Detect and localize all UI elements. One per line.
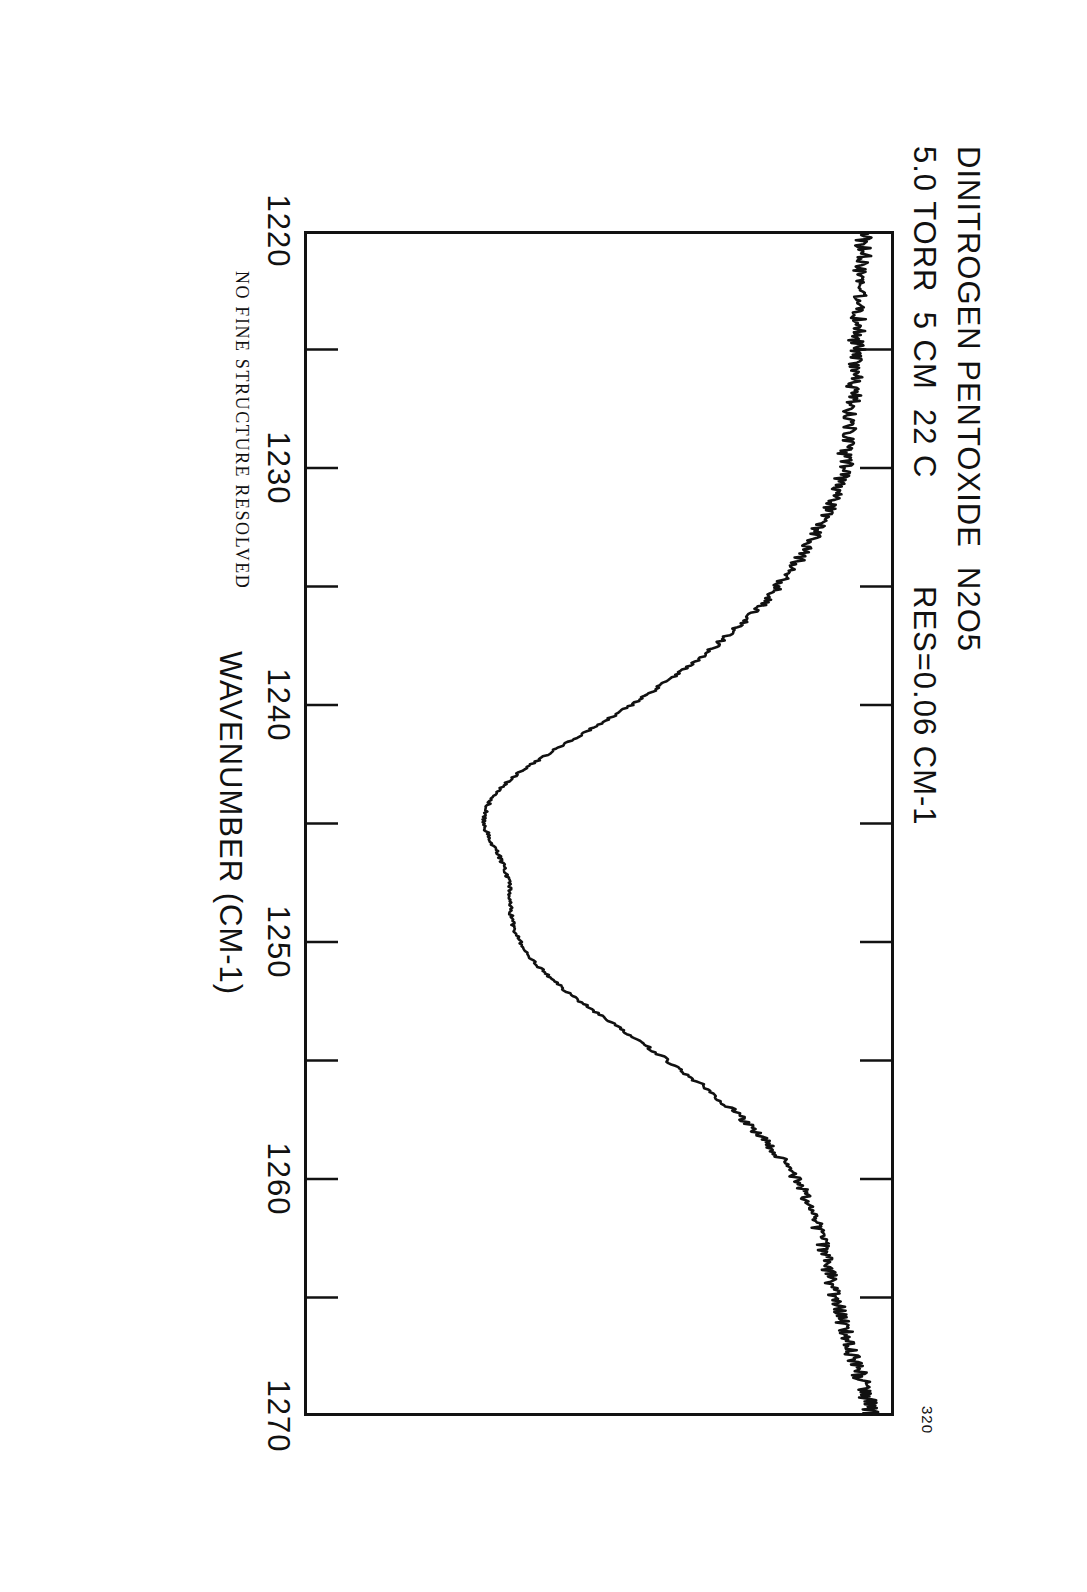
figure-resolution: RES=0.06 CM-1 bbox=[906, 586, 942, 826]
spectrum-figure: DINITROGEN PENTOXIDE N2O5 5.0 TORR 5 CM … bbox=[94, 116, 994, 1476]
x-tick-label: 1240 bbox=[260, 669, 296, 742]
figure-conditions: 5.0 TORR 5 CM 22 C bbox=[906, 146, 942, 478]
figure-page: DINITROGEN PENTOXIDE N2O5 5.0 TORR 5 CM … bbox=[0, 0, 1087, 1592]
x-tick-label: 1250 bbox=[260, 906, 296, 979]
figure-title: DINITROGEN PENTOXIDE N2O5 bbox=[950, 146, 986, 652]
spectrum-trace bbox=[304, 231, 894, 1416]
x-tick-label: 1220 bbox=[260, 195, 296, 268]
rotated-figure-wrapper: DINITROGEN PENTOXIDE N2O5 5.0 TORR 5 CM … bbox=[94, 116, 994, 1476]
x-tick-label-row: 122012301240125012601270 bbox=[252, 116, 296, 1476]
x-tick-label: 1260 bbox=[260, 1143, 296, 1216]
x-tick-label: 1270 bbox=[260, 1380, 296, 1453]
plot-annotation: NO FINE STRUCTURE RESOLVED bbox=[231, 271, 252, 589]
x-axis-title: WAVENUMBER (CM-1) bbox=[212, 651, 248, 995]
plot-area bbox=[304, 231, 894, 1416]
x-tick-label: 1230 bbox=[260, 432, 296, 505]
corner-scale-label: 320 bbox=[919, 1406, 936, 1434]
